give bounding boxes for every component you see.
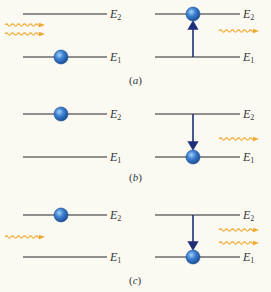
label-e1: E1 [110, 51, 121, 65]
outgoing-photon-icon [219, 29, 259, 33]
electron-icon [54, 50, 68, 64]
incoming-photon-icon [5, 23, 45, 27]
label-e1: E1 [110, 251, 121, 265]
label-e1: E1 [243, 151, 254, 165]
electron-icon [54, 208, 68, 222]
electron-icon [186, 250, 200, 264]
incoming-photon-icon [5, 32, 45, 36]
label-e2: E2 [110, 8, 121, 22]
caption-a: (a) [129, 75, 142, 86]
label-e2: E2 [243, 108, 254, 122]
outgoing-photon-icon [219, 137, 259, 141]
label-e1: E1 [110, 151, 121, 165]
label-e2: E2 [243, 209, 254, 223]
label-e2: E2 [243, 8, 254, 22]
panel-a [5, 7, 259, 64]
label-e1: E1 [243, 251, 254, 265]
label-e2: E2 [110, 108, 121, 122]
caption-c: (c) [129, 275, 141, 286]
diagram-graphics [0, 0, 271, 292]
electron-icon [186, 7, 200, 21]
outgoing-photon-icon [219, 241, 259, 245]
caption-b: (b) [129, 172, 142, 183]
panel-b [23, 107, 259, 164]
energy-level-diagram: E2 E1 E2 E1 E2 E1 E2 E1 E2 E1 E2 E1 (a) … [0, 0, 271, 292]
electron-icon [186, 150, 200, 164]
label-e2: E2 [110, 209, 121, 223]
electron-icon [54, 107, 68, 121]
label-e1: E1 [243, 51, 254, 65]
outgoing-photon-icon [219, 228, 259, 232]
incoming-photon-icon [5, 235, 45, 239]
panel-c [5, 208, 259, 264]
